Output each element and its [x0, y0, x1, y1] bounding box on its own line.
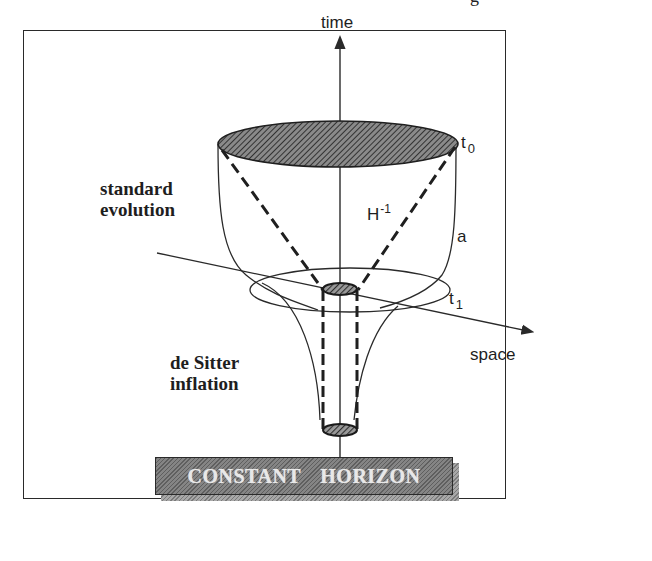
de-sitter-inflation-label: de Sitter inflation: [170, 352, 239, 394]
banner-text: CONSTANT HORIZON: [188, 465, 421, 488]
hubble-radius-base: H: [367, 205, 379, 224]
t0-disk: [218, 121, 458, 167]
funnel-outline: [218, 144, 456, 420]
standard-evolution-line-1: standard: [100, 178, 175, 199]
t0-label: t0: [461, 133, 475, 153]
constant-horizon-banner: CONSTANT HORIZON: [155, 457, 453, 495]
standard-evolution-label: standard evolution: [100, 178, 175, 220]
hubble-radius-label: H-1: [367, 205, 391, 225]
t1-label: t1: [449, 289, 463, 309]
standard-evolution-line-2: evolution: [100, 199, 175, 220]
t0-label-base: t: [461, 133, 466, 152]
time-axis-label: time: [321, 13, 353, 33]
t1-label-sub: 1: [456, 297, 463, 312]
t1-label-base: t: [449, 289, 454, 308]
space-axis-label: space: [470, 345, 515, 365]
scale-factor-label: a: [457, 227, 466, 247]
de-sitter-line-1: de Sitter: [170, 352, 239, 373]
hubble-radius-sup: -1: [380, 202, 391, 216]
de-sitter-line-2: inflation: [170, 373, 239, 394]
t0-label-sub: 0: [468, 141, 475, 156]
